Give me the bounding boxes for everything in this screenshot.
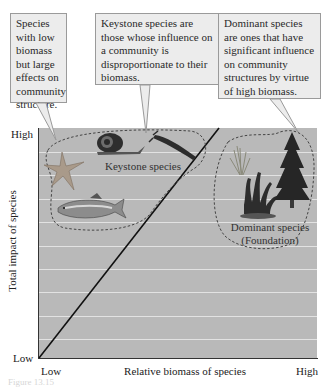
x-tick-low: Low [41,365,61,377]
label-line: Dominant species [220,221,320,234]
diagram-overlay [0,0,330,388]
keystone-species-label: Keystone species [98,160,188,173]
label-text: Keystone species [105,160,181,172]
crayfish-icon [149,131,196,160]
label-line: (Foundation) [220,234,320,247]
snail-icon [97,133,145,155]
trout-icon [58,193,126,218]
y-axis-label: Total impact of species [6,181,18,301]
dominant-species-label: Dominant species (Foundation) [220,221,320,247]
sea-star-icon [44,152,84,190]
y-tick-low: Low [13,352,33,364]
x-tick-high: High [296,365,318,377]
x-axis-label: Relative biomass of species [110,365,260,377]
figure-caption: Figure 13.15 [8,377,54,387]
grass-icon [230,146,250,175]
callout-pointers [36,85,298,140]
conifer-tree-icon [274,132,310,208]
coral-icon [240,172,277,219]
y-tick-high: High [11,128,33,140]
